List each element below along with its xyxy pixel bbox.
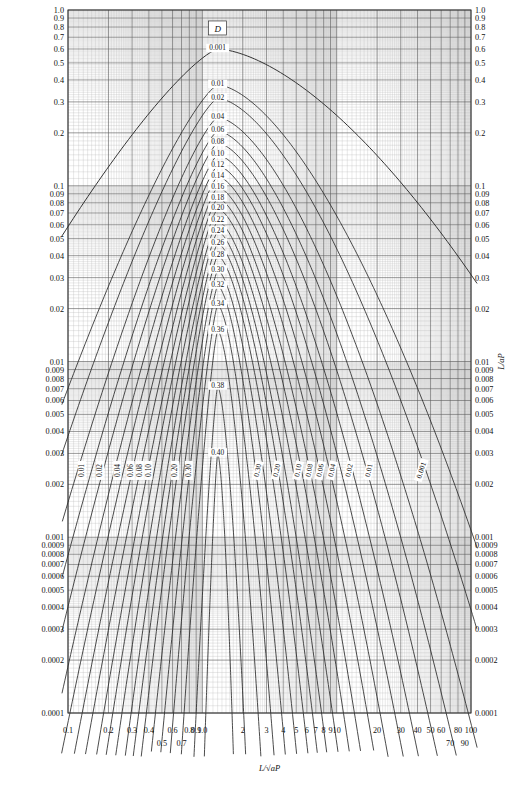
svg-text:0.01: 0.01	[77, 464, 86, 477]
y-axis-tick-label-right: 0.0009	[475, 541, 498, 550]
y-axis-tick-label: 0.008	[46, 375, 64, 384]
svg-text:0.30: 0.30	[184, 464, 193, 477]
x-axis-title: L/√aP	[258, 763, 280, 773]
y-axis-tick-label-right: 0.5	[475, 59, 485, 68]
y-axis-tick-label-right: 0.05	[475, 235, 489, 244]
contour-label: 0.12	[211, 160, 224, 169]
svg-text:L/aP: L/aP	[496, 353, 506, 371]
y-axis-tick-label-right: 0.0005	[475, 586, 498, 595]
y-axis-tick-label-right: 0.007	[475, 385, 493, 394]
contour-label: 0.10	[211, 149, 224, 158]
y-axis-tick-label: 0.0008	[41, 550, 64, 559]
y-axis-tick-label: 0.03	[50, 274, 64, 283]
x-axis-tick-label: 40	[413, 726, 421, 735]
svg-text:0.10: 0.10	[144, 464, 153, 477]
y-axis-tick-label-right: 0.009	[475, 366, 493, 375]
chart-container: 0.0010.010.020.040.060.080.100.120.140.1…	[0, 0, 515, 786]
y-axis-tick-label-right: 0.004	[475, 427, 493, 436]
contour-label: 0.22	[211, 215, 224, 224]
contour-label: 0.38	[211, 381, 224, 390]
x-axis-tick-label: 50	[426, 726, 434, 735]
x-axis-tick-label: 0.1	[63, 726, 73, 735]
y-axis-tick-label-right: 0.005	[475, 410, 493, 419]
x-axis-tick-label: 10	[333, 726, 341, 735]
x-axis-tick-label: 3	[264, 726, 268, 735]
x-axis-tick-label: 4	[281, 726, 285, 735]
contour-label: 0.18	[211, 193, 224, 202]
y-axis-tick-label-right: 0.0001	[475, 709, 498, 718]
legend-box-label: D	[213, 24, 221, 34]
x-axis-tick-label: 2	[241, 726, 245, 735]
left-branch-label: 0.04	[113, 461, 122, 480]
y-axis-tick-label-right: 0.03	[475, 274, 489, 283]
y-axis-tick-label-right: 0.04	[475, 252, 489, 261]
y-axis-tick-label: 0.09	[50, 190, 64, 199]
x-axis-tick-label: 1.0	[197, 726, 207, 735]
left-branch-label: 0.20	[170, 461, 179, 480]
x-axis-tick-label: 5	[294, 726, 298, 735]
y-axis-tick-label: 0.0006	[41, 572, 64, 581]
svg-text:0.04: 0.04	[113, 464, 122, 477]
y-axis-tick-label: 0.06	[50, 221, 64, 230]
y-axis-tick-label-right: 0.2	[475, 129, 485, 138]
contour-label: 0.20	[211, 203, 224, 212]
contour-label: 0.06	[211, 125, 224, 134]
y-axis-tick-label-right: 0.8	[475, 23, 485, 32]
contour-label: 0.04	[211, 112, 224, 121]
y-axis-tick-label: 0.7	[54, 33, 64, 42]
x-axis-tick-label: 30	[397, 726, 405, 735]
left-branch-label: 0.01	[77, 461, 86, 480]
log-log-nomograph: 0.0010.010.020.040.060.080.100.120.140.1…	[0, 0, 515, 786]
x-axis-tick-label: 100	[465, 726, 477, 735]
y-axis-tick-label: 0.9	[54, 14, 64, 23]
y-axis-tick-label: 0.0005	[41, 586, 64, 595]
y-axis-tick-label-right: 0.6	[475, 45, 485, 54]
x-axis-tick-label: 70	[446, 739, 454, 748]
y-axis-tick-label-right: 0.3	[475, 98, 485, 107]
x-axis-tick-label: 0.7	[176, 739, 186, 748]
y-axis-tick-label: 0.0007	[41, 560, 64, 569]
contour-label: 0.24	[211, 226, 224, 235]
contour-label: 0.34	[211, 299, 224, 308]
y-axis-tick-label-right: 0.4	[475, 76, 485, 85]
y-axis-tick-label-right: 0.08	[475, 199, 489, 208]
y-axis-tick-label-right: 0.002	[475, 480, 493, 489]
y-axis-tick-label-right: 0.9	[475, 14, 485, 23]
x-axis-tick-label: 0.4	[144, 726, 154, 735]
contour-label: 0.26	[211, 238, 224, 247]
y-axis-tick-label: 0.07	[50, 209, 64, 218]
left-branch-label: 0.30	[184, 461, 193, 480]
contour-label: 0.36	[211, 325, 224, 334]
contour-label: 0.02	[211, 93, 224, 102]
x-axis-tick-label: 0.5	[157, 739, 167, 748]
y-axis-tick-label: 0.0002	[41, 656, 64, 665]
contour-label: 0.40	[211, 448, 224, 457]
y-axis-tick-label-right: 0.006	[475, 396, 493, 405]
x-axis-tick-label: 7	[314, 726, 318, 735]
y-axis-tick-label: 0.3	[54, 98, 64, 107]
contour-label: 0.08	[211, 137, 224, 146]
y-axis-tick-label: 0.08	[50, 199, 64, 208]
contour-label: 0.14	[211, 171, 224, 180]
y-axis-tick-label: 0.0004	[41, 603, 64, 612]
y-axis-tick-label: 0.006	[46, 396, 64, 405]
y-axis-tick-label: 0.8	[54, 23, 64, 32]
contour-label: 0.30	[211, 265, 224, 274]
contour-label: 0.16	[211, 182, 224, 191]
contour-label: 0.32	[211, 280, 224, 289]
y-axis-tick-label: 0.4	[54, 76, 64, 85]
x-axis-tick-label: 0.3	[127, 726, 137, 735]
y-axis-tick-label: 0.007	[46, 385, 64, 394]
x-axis-tick-label: 0.2	[103, 726, 113, 735]
y-axis-tick-label-right: 0.0008	[475, 550, 498, 559]
left-branch-label: 0.06	[126, 461, 135, 480]
y-axis-tick-label: 0.009	[46, 366, 64, 375]
y-axis-tick-label-right: 0.003	[475, 449, 493, 458]
y-axis-tick-label-right: 0.0004	[475, 603, 498, 612]
y-axis-tick-label: 0.04	[50, 252, 64, 261]
x-axis-tick-label: 80	[454, 726, 462, 735]
x-axis-tick-label: 0.6	[167, 726, 177, 735]
y-axis-tick-label-right: 0.0006	[475, 572, 498, 581]
contour-label: 0.01	[211, 79, 224, 88]
x-axis-tick-label: 8	[322, 726, 326, 735]
